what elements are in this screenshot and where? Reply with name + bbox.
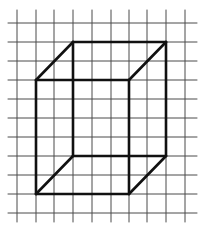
diagram-canvas: [0, 0, 202, 227]
cube-grid-diagram: [0, 0, 202, 227]
